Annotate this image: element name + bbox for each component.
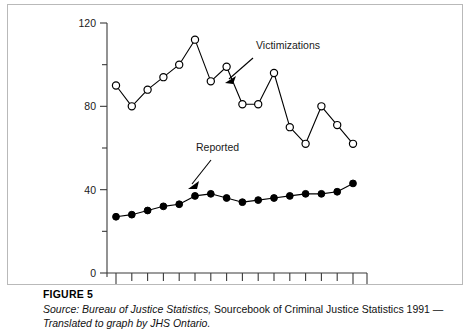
data-point-reported [144,207,151,214]
data-point-reported [302,190,309,197]
data-point-victimizations [223,63,230,70]
source-middle: Sourcebook of Criminal Justice Statistic… [211,303,443,315]
victimizations-annotation-label: Victimizations [256,39,320,51]
source-prefix: Source: Bureau of Justice Statistics, [43,303,211,315]
data-point-victimizations [318,103,325,110]
figure-number: FIGURE 5 [43,288,463,300]
data-point-reported [207,190,214,197]
data-point-reported [239,199,246,206]
y-tick-label: 0 [90,267,96,279]
y-tick-label: 120 [78,17,96,29]
data-point-victimizations [144,86,151,93]
data-point-victimizations [128,103,135,110]
data-point-victimizations [302,140,309,147]
data-point-reported [113,213,120,220]
data-point-victimizations [286,124,293,131]
data-point-victimizations [112,82,119,89]
data-point-victimizations [160,74,167,81]
data-point-reported [318,190,325,197]
figure-container: 0408012019751990VictimizationsReported F… [0,0,473,334]
line-chart: 0408012019751990VictimizationsReported [8,5,464,286]
reported-arrow-line [192,160,211,184]
data-point-victimizations [191,36,198,43]
data-point-reported [271,195,278,202]
y-tick-label: 80 [84,100,96,112]
data-point-victimizations [349,140,356,147]
series-line-victimizations [116,40,353,144]
data-point-victimizations [239,101,246,108]
chart-panel: 0408012019751990VictimizationsReported [7,4,463,285]
data-point-victimizations [255,101,262,108]
data-point-victimizations [270,69,277,76]
data-point-reported [160,203,167,210]
data-point-reported [334,188,341,195]
data-point-victimizations [207,78,214,85]
data-point-reported [128,211,135,218]
source-line2: Translated to graph by JHS Ontario. [43,317,210,329]
data-point-reported [223,195,230,202]
data-point-victimizations [176,61,183,68]
data-point-reported [286,193,293,200]
data-point-reported [176,201,183,208]
data-point-reported [350,180,357,187]
data-point-victimizations [334,121,341,128]
victimizations-arrow-line [229,58,253,79]
data-point-reported [255,197,262,204]
figure-caption-block: FIGURE 5 Source: Bureau of Justice Stati… [43,288,463,330]
figure-source-caption: Source: Bureau of Justice Statistics, So… [43,302,463,330]
reported-annotation-label: Reported [196,141,239,153]
series-line-reported [116,183,353,216]
data-point-reported [192,193,199,200]
y-tick-label: 40 [84,184,96,196]
